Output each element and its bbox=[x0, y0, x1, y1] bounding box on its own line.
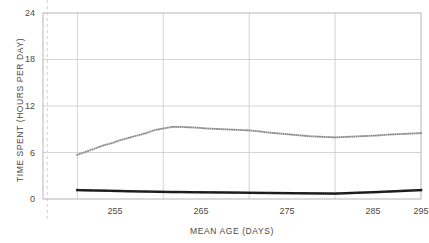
data-point bbox=[130, 136, 132, 138]
data-point bbox=[399, 133, 401, 135]
data-point bbox=[244, 129, 246, 131]
data-point bbox=[304, 135, 306, 137]
data-point bbox=[134, 135, 136, 137]
data-point bbox=[220, 128, 222, 130]
data-point bbox=[283, 133, 285, 135]
data-point bbox=[362, 135, 364, 137]
data-point bbox=[394, 133, 396, 135]
data-point bbox=[167, 127, 169, 129]
data-point bbox=[414, 133, 416, 135]
data-point bbox=[152, 130, 154, 132]
data-point bbox=[235, 129, 237, 131]
data-point bbox=[106, 143, 108, 145]
data-point bbox=[190, 127, 192, 129]
data-point bbox=[87, 150, 89, 152]
data-point bbox=[218, 128, 220, 130]
data-point bbox=[113, 142, 115, 144]
data-point bbox=[280, 133, 282, 135]
data-point bbox=[276, 132, 278, 134]
data-point bbox=[212, 128, 214, 130]
data-point bbox=[154, 129, 156, 131]
data-point bbox=[173, 126, 175, 128]
data-point bbox=[180, 126, 182, 128]
data-point bbox=[216, 128, 218, 130]
data-point bbox=[201, 127, 203, 129]
data-point bbox=[270, 132, 272, 134]
data-point bbox=[403, 133, 405, 135]
data-point bbox=[203, 127, 205, 129]
data-point bbox=[313, 136, 315, 138]
data-point bbox=[137, 135, 139, 137]
data-point bbox=[231, 129, 233, 131]
data-point bbox=[298, 134, 300, 136]
data-point bbox=[98, 146, 100, 148]
data-point bbox=[407, 133, 409, 135]
data-point bbox=[119, 139, 121, 141]
data-point bbox=[300, 135, 302, 137]
data-point bbox=[308, 135, 310, 137]
data-point bbox=[100, 145, 102, 147]
data-point bbox=[272, 132, 274, 134]
data-point bbox=[160, 128, 162, 130]
data-point bbox=[128, 137, 130, 139]
data-point bbox=[265, 131, 267, 133]
data-point bbox=[287, 133, 289, 135]
data-point bbox=[94, 148, 96, 150]
data-point bbox=[149, 131, 151, 133]
data-point bbox=[145, 132, 147, 134]
data-point bbox=[79, 153, 81, 155]
data-point bbox=[76, 154, 78, 156]
data-point bbox=[169, 126, 171, 128]
data-point bbox=[373, 135, 375, 137]
data-point bbox=[347, 136, 349, 138]
data-point bbox=[336, 136, 338, 138]
data-point bbox=[366, 135, 368, 137]
data-point bbox=[377, 135, 379, 137]
data-point bbox=[390, 134, 392, 136]
data-point bbox=[177, 126, 179, 128]
data-point bbox=[351, 136, 353, 138]
data-point bbox=[306, 135, 308, 137]
data-point bbox=[418, 132, 420, 134]
data-point bbox=[225, 128, 227, 130]
data-point bbox=[328, 136, 330, 138]
data-point bbox=[222, 128, 224, 130]
data-point bbox=[315, 136, 317, 138]
data-point bbox=[409, 133, 411, 135]
data-point bbox=[81, 152, 83, 154]
data-point bbox=[253, 130, 255, 132]
data-point bbox=[188, 126, 190, 128]
data-point bbox=[289, 134, 291, 136]
data-point bbox=[349, 136, 351, 138]
data-point bbox=[227, 129, 229, 131]
data-point bbox=[285, 133, 287, 135]
data-point bbox=[143, 133, 145, 135]
data-point bbox=[147, 131, 149, 133]
data-point bbox=[334, 136, 336, 138]
data-point bbox=[250, 130, 252, 132]
data-point bbox=[388, 134, 390, 136]
data-point bbox=[360, 135, 362, 137]
data-point bbox=[104, 144, 106, 146]
data-point bbox=[384, 134, 386, 136]
data-point bbox=[319, 136, 321, 138]
data-point bbox=[392, 133, 394, 135]
data-point bbox=[240, 129, 242, 131]
data-point bbox=[330, 136, 332, 138]
data-point bbox=[207, 128, 209, 130]
data-point bbox=[117, 140, 119, 142]
data-point bbox=[141, 133, 143, 135]
data-point bbox=[302, 135, 304, 137]
data-point bbox=[326, 136, 328, 138]
data-point bbox=[293, 134, 295, 136]
data-point bbox=[175, 126, 177, 128]
data-point bbox=[102, 145, 104, 147]
data-point bbox=[210, 128, 212, 130]
data-point bbox=[85, 151, 87, 153]
data-point bbox=[158, 128, 160, 130]
data-point bbox=[420, 189, 423, 191]
data-point bbox=[115, 141, 117, 143]
plot-area bbox=[0, 0, 429, 243]
data-point bbox=[182, 126, 184, 128]
data-point bbox=[237, 129, 239, 131]
